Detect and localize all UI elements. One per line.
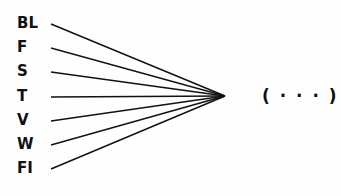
- input-label-w: W: [17, 137, 34, 152]
- input-label-t: T: [17, 89, 27, 104]
- line-v: [51, 96, 225, 121]
- line-s: [51, 72, 225, 96]
- line-fi: [51, 96, 225, 169]
- input-label-bl: BL: [17, 16, 38, 31]
- line-f: [51, 48, 225, 96]
- input-label-s: S: [17, 64, 28, 79]
- line-bl: [51, 24, 225, 96]
- input-label-f: F: [17, 40, 27, 55]
- line-t: [51, 96, 225, 97]
- input-label-v: V: [17, 113, 29, 128]
- output-ellipsis: ( · · · ): [262, 86, 339, 106]
- line-w: [51, 96, 225, 145]
- input-label-fi: FI: [17, 161, 33, 176]
